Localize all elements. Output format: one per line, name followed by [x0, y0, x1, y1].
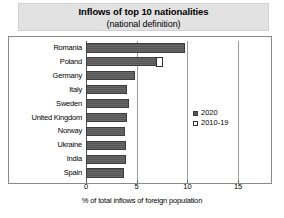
table-row: Ukraine [0, 138, 237, 152]
category-label-romania: Romania [0, 41, 82, 55]
legend-swatch-filled-square-icon [193, 111, 198, 116]
table-row: Romania [0, 41, 237, 55]
category-label-united-kingdom: United Kingdom [0, 111, 82, 125]
legend-label-2020: 2020 [201, 108, 218, 118]
category-label-italy: Italy [0, 83, 82, 97]
category-label-ukraine: Ukraine [0, 138, 82, 152]
table-row: Germany [0, 69, 237, 83]
category-label-spain: Spain [0, 166, 82, 180]
bar-2020-india [86, 155, 126, 164]
bar-2020-united-kingdom [86, 113, 127, 122]
category-label-sweden: Sweden [0, 97, 82, 111]
category-label-india: India [0, 152, 82, 166]
legend-item-2020: 2020 [193, 108, 229, 118]
x-tick-label-15: 15 [228, 182, 248, 191]
table-row: Italy [0, 83, 237, 97]
bar-2020-ukraine [86, 141, 126, 150]
bar-2020-romania [86, 43, 185, 52]
chart-figure: Inflows of top 10 nationalities (nationa… [0, 0, 284, 218]
legend-item-2010-19: 2010-19 [193, 118, 229, 128]
gridline-15 [238, 41, 239, 180]
marker-2010-19-poland [156, 57, 163, 67]
chart-subtitle: (national definition) [19, 18, 268, 30]
chart-title: Inflows of top 10 nationalities [19, 5, 268, 18]
bar-2020-italy [86, 85, 127, 94]
bar-2020-poland [86, 57, 161, 66]
bar-2020-spain [86, 168, 124, 177]
category-label-norway: Norway [0, 124, 82, 138]
table-row: India [0, 152, 237, 166]
x-tick-label-5: 5 [127, 182, 147, 191]
legend-label-2010-19: 2010-19 [201, 118, 229, 128]
category-label-poland: Poland [0, 55, 82, 69]
x-tick-label-10: 10 [177, 182, 197, 191]
chart-title-banner: Inflows of top 10 nationalities (nationa… [18, 3, 269, 31]
bar-2020-germany [86, 71, 135, 80]
legend-swatch-open-square-icon [193, 121, 198, 126]
bar-2020-sweden [86, 99, 129, 108]
category-label-germany: Germany [0, 69, 82, 83]
chart-legend: 2020 2010-19 [193, 108, 229, 128]
x-tick-label-0: 0 [76, 182, 96, 191]
bar-2020-norway [86, 127, 125, 136]
table-row: Spain [0, 166, 237, 180]
table-row: Poland [0, 55, 237, 69]
x-axis-title: % of total inflows of foreign population [0, 196, 284, 205]
